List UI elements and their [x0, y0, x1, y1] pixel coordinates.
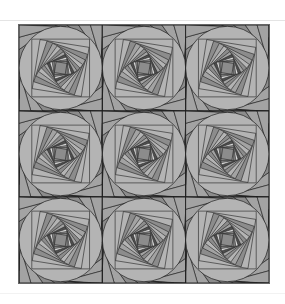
tile-1-1 — [102, 111, 185, 197]
tile-0-2 — [186, 25, 269, 111]
bottom-divider — [0, 293, 285, 294]
tile-2-0 — [19, 197, 102, 283]
tile-1-2 — [186, 111, 269, 197]
tile-0-0 — [19, 25, 102, 111]
tile-0-1 — [102, 25, 185, 111]
tile-2-1 — [102, 197, 185, 283]
spiral-tessellation-artwork — [18, 24, 270, 284]
tessellation-canvas — [19, 25, 269, 283]
top-divider — [0, 20, 285, 21]
tile-1-0 — [19, 111, 102, 197]
tile-2-2 — [186, 197, 269, 283]
